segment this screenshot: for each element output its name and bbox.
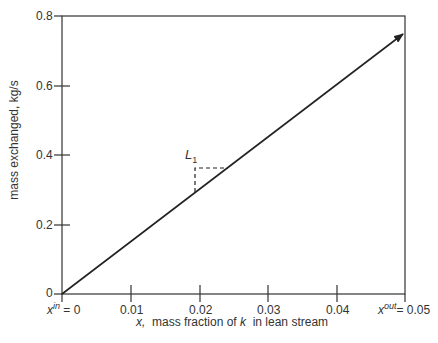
plot-frame <box>62 16 405 294</box>
y-tick-label-0.2: 0.2 <box>36 218 53 232</box>
x-axis-label: x, mass fraction of k in lean stream <box>136 315 328 329</box>
line-label-L1: L1 <box>185 147 197 165</box>
chart-canvas <box>0 0 438 343</box>
y-tick-label-0.4: 0.4 <box>36 148 53 162</box>
y-axis-label: mass exchanged, kg/s <box>7 80 21 199</box>
y-tick-label-0.6: 0.6 <box>36 79 53 93</box>
x-tick-label-0.04: 0.04 <box>326 303 349 317</box>
x-in-label: xin = 0 <box>47 301 80 317</box>
y-tick-label-0: 0 <box>46 286 53 300</box>
y-tick-label-0.8: 0.8 <box>36 9 53 23</box>
x-out-label: xout= 0.05 <box>378 301 430 317</box>
operating-line-L1 <box>62 34 403 294</box>
